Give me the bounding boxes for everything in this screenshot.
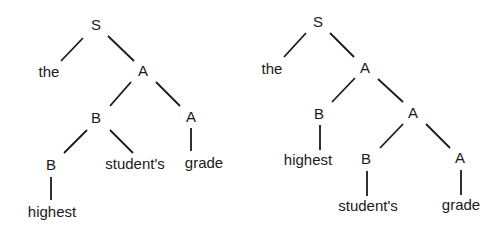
tree-node: the bbox=[262, 61, 283, 76]
tree-node: A bbox=[186, 109, 196, 124]
tree-edge bbox=[380, 124, 403, 148]
tree-node: A bbox=[138, 63, 148, 78]
tree-node: student's bbox=[105, 156, 165, 171]
tree-node: highest bbox=[284, 152, 332, 167]
tree-node: grade bbox=[442, 197, 480, 212]
tree-node: grade bbox=[185, 155, 223, 170]
right-tree-edges bbox=[284, 33, 461, 196]
tree-node: S bbox=[313, 14, 323, 29]
tree-edge bbox=[156, 82, 180, 106]
left-tree-edges bbox=[51, 36, 191, 200]
tree-edge bbox=[61, 38, 83, 61]
tree-edge bbox=[332, 78, 355, 102]
tree-node: B bbox=[91, 110, 101, 125]
tree-edge bbox=[110, 82, 131, 106]
tree-node: A bbox=[360, 60, 370, 75]
tree-node: S bbox=[91, 17, 101, 32]
tree-edge bbox=[108, 36, 134, 61]
tree-node: A bbox=[455, 150, 465, 165]
tree-node: B bbox=[46, 157, 56, 172]
parse-tree-figure: StheABABstudent'sgradehighestStheABAhigh… bbox=[0, 0, 500, 235]
tree-edge bbox=[378, 79, 403, 102]
tree-node: student's bbox=[338, 198, 398, 213]
tree-edge bbox=[426, 124, 450, 148]
tree-node: A bbox=[408, 105, 418, 120]
tree-node: highest bbox=[28, 204, 76, 219]
tree-node: B bbox=[361, 151, 371, 166]
tree-edge bbox=[110, 130, 133, 153]
tree-node: B bbox=[314, 106, 324, 121]
tree-edge bbox=[64, 130, 87, 153]
tree-node: the bbox=[39, 64, 60, 79]
tree-edge bbox=[330, 33, 354, 57]
tree-edge bbox=[284, 33, 306, 57]
tree-edges bbox=[0, 0, 500, 235]
